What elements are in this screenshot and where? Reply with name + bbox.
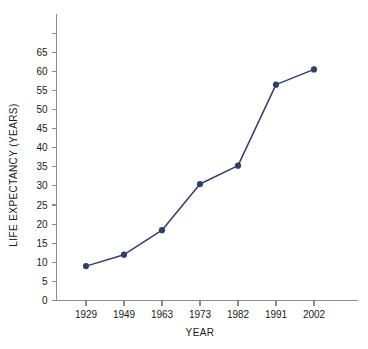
data-point-marker <box>311 66 317 72</box>
x-tick-label: 2002 <box>303 309 326 320</box>
x-tick-label: 1991 <box>265 309 288 320</box>
y-tick-label: 20 <box>36 219 48 230</box>
x-tick-label: 1982 <box>227 309 250 320</box>
y-tick-label: 30 <box>36 180 48 191</box>
y-tick-label: 5 <box>42 276 48 287</box>
y-tick-label: 50 <box>36 104 48 115</box>
y-tick-label: 25 <box>36 200 48 211</box>
y-tick-label: 60 <box>36 66 48 77</box>
y-tick-label: 45 <box>36 123 48 134</box>
line-chart: 05101520253035404550556065 1929194919631… <box>0 0 368 349</box>
y-tick-label: 35 <box>36 161 48 172</box>
data-point-marker <box>197 181 203 187</box>
x-tick-label: 1963 <box>151 309 174 320</box>
data-point-marker <box>121 252 127 258</box>
data-point-marker <box>235 163 241 169</box>
y-tick-label: 15 <box>36 238 48 249</box>
y-tick-label: 40 <box>36 142 48 153</box>
data-point-marker <box>159 227 165 233</box>
x-tick-label: 1973 <box>189 309 212 320</box>
x-axis-title: YEAR <box>186 327 215 338</box>
data-point-marker <box>83 263 89 269</box>
y-axis-title: LIFE EXPECTANCY (YEARS) <box>8 103 19 246</box>
y-tick-label: 65 <box>36 47 48 58</box>
x-tick-label: 1929 <box>75 309 98 320</box>
data-point-marker <box>273 82 279 88</box>
y-tick-label: 10 <box>36 257 48 268</box>
x-tick-label: 1949 <box>113 309 136 320</box>
y-tick-label: 0 <box>42 295 48 306</box>
chart-canvas: 05101520253035404550556065 1929194919631… <box>0 0 368 349</box>
y-tick-label: 55 <box>36 85 48 96</box>
